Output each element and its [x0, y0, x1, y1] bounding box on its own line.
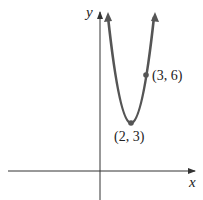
- point-3-6: [143, 72, 149, 78]
- vertex-label: (2, 3): [114, 129, 145, 145]
- curve-arrow-left-icon: [104, 12, 112, 22]
- y-axis-label: y: [84, 4, 93, 20]
- curve-arrow-right-icon: [151, 12, 159, 22]
- vertex-point: [128, 120, 134, 126]
- parabola-curve: [108, 17, 154, 123]
- x-axis-label: x: [188, 174, 196, 190]
- parabola-graph: (3, 6) (2, 3) y x: [0, 0, 203, 200]
- point-label: (3, 6): [152, 68, 183, 84]
